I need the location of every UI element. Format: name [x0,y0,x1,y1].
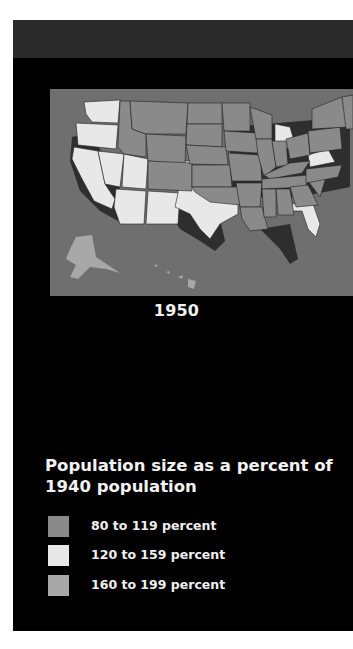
legend-title-line2: 1940 population [45,476,345,497]
legend-swatch [48,516,69,537]
legend-item: 120 to 159 percent [48,545,308,566]
figure-panel [13,20,353,631]
us-map-graphic [50,89,353,296]
states-160-199 [66,235,196,289]
state-new-mexico [146,191,180,224]
state-south-dakota [186,124,222,147]
header-band [13,20,353,58]
state-arkansas [236,183,262,207]
state-montana [130,101,188,134]
state-kansas [192,165,232,187]
state-pennsylvania [308,127,342,153]
state-mississippi [262,189,276,217]
state-wyoming [146,134,186,164]
legend-title-line1: Population size as a percent of [45,455,345,476]
state-alaska [66,235,120,279]
us-map [50,89,353,296]
legend-item: 160 to 199 percent [48,575,308,596]
legend-label: 160 to 199 percent [91,577,225,592]
legend-swatch [48,545,69,566]
state-hawaii [154,264,196,289]
year-label: 1950 [0,301,353,320]
state-iowa [224,131,258,153]
legend-item: 80 to 119 percent [48,516,308,537]
state-nebraska [186,145,228,165]
state-missouri [228,153,262,181]
state-colorado [148,161,192,191]
legend-swatch [48,575,69,596]
state-minnesota [222,103,250,131]
legend-label: 120 to 159 percent [91,547,225,562]
state-north-dakota [187,103,222,124]
legend-label: 80 to 119 percent [91,518,216,533]
state-arizona [114,189,146,224]
legend-title: Population size as a percent of 1940 pop… [45,455,345,497]
state-utah [122,154,148,189]
state-washington [84,100,120,123]
state-oregon [76,123,118,149]
